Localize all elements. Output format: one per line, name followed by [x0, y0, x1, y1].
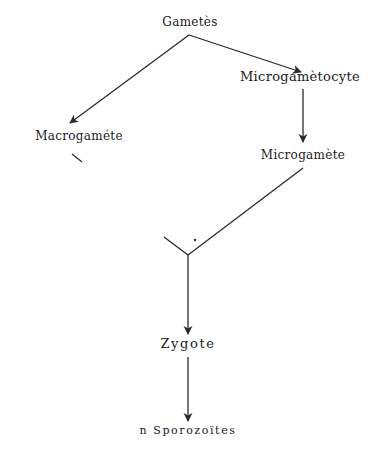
edge-macrogamete-to-fusion [164, 237, 188, 255]
edge-gametes-to-macrogamete [70, 35, 189, 123]
node-sporozoites: n Sporozoïtes [140, 424, 237, 437]
node-macrogamete: Macrogaméte [35, 129, 123, 143]
fusion-dot [194, 239, 196, 241]
node-microgamete: Microgamète [261, 148, 345, 162]
node-zygote: Zygote [160, 336, 215, 351]
node-gametes: Gametès [162, 15, 217, 29]
edge-gametes-to-microgametocyte [189, 35, 301, 72]
diagram-edges [0, 0, 387, 450]
edge-microgamete-to-fusion [188, 168, 303, 255]
edge-macrogamete-stub [72, 154, 82, 162]
node-microgametocyte: Microgamètocyte [240, 69, 360, 84]
